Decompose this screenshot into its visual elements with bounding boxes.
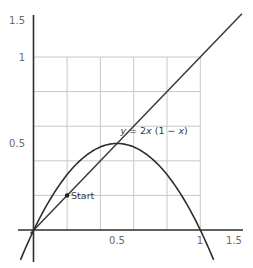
x-tick-label-1.5: 1.5 xyxy=(226,235,242,246)
x-tick-label-1: 1 xyxy=(197,235,203,246)
start-label: Start xyxy=(71,190,94,201)
diagonal-line-y-equals-x xyxy=(30,14,241,234)
eq-part: = 2 xyxy=(126,125,146,136)
y-tick-label-1.5: 1.5 xyxy=(9,15,25,26)
y-tick-label-1: 1 xyxy=(19,52,25,63)
y-tick-label-0.5: 0.5 xyxy=(9,138,25,149)
logistic-map-chart: Start y = 2x (1 − x) 1.5 1 0.5 0.5 1 1.5 xyxy=(0,0,253,268)
eq-part-mid: (1 − xyxy=(152,125,179,136)
eq-part-end: ) xyxy=(184,125,188,136)
curve-equation-label: y = 2x (1 − x) xyxy=(119,125,187,136)
x-tick-label-0.5: 0.5 xyxy=(109,235,125,246)
start-point-marker xyxy=(65,193,69,197)
